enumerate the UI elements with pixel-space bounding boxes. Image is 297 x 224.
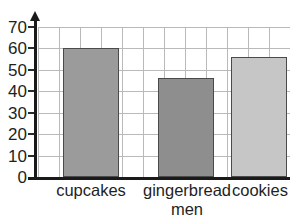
y-tick-label-70: 70 [1, 19, 27, 36]
bar-chart: 70 60 50 40 30 20 10 0 [0, 0, 297, 224]
x-label-gingerbread-men-line1: gingerbread [143, 181, 231, 199]
x-axis-line [28, 177, 290, 180]
gridline-v-1 [38, 27, 39, 177]
plot-area [38, 27, 290, 177]
bar-cupcakes [63, 48, 119, 177]
x-label-cookies-line1: cookies [232, 181, 288, 199]
x-label-gingerbread-men-line2: men [128, 200, 246, 219]
y-tick-label-60: 60 [1, 40, 27, 57]
y-tick-label-0: 0 [1, 169, 27, 186]
bar-cookies [231, 57, 287, 177]
y-tick-label-40: 40 [1, 83, 27, 100]
y-axis-line [34, 18, 37, 179]
y-tick-label-30: 30 [1, 105, 27, 122]
x-label-cookies: cookies [221, 181, 297, 200]
y-tick-label-20: 20 [1, 126, 27, 143]
gridline-v-6 [143, 27, 144, 177]
y-axis-tick-labels: 70 60 50 40 30 20 10 0 [0, 0, 27, 224]
x-axis-category-labels: cupcakes gingerbread men cookies [38, 181, 297, 224]
y-tick-label-50: 50 [1, 62, 27, 79]
bar-gingerbread-men [158, 78, 214, 177]
x-label-cupcakes-line1: cupcakes [56, 181, 126, 199]
gridline-v-10 [227, 27, 228, 177]
gridline-v-2 [59, 27, 60, 177]
gridline-v-5 [122, 27, 123, 177]
y-tick-label-10: 10 [1, 148, 27, 165]
y-axis-arrow-icon [30, 11, 40, 21]
